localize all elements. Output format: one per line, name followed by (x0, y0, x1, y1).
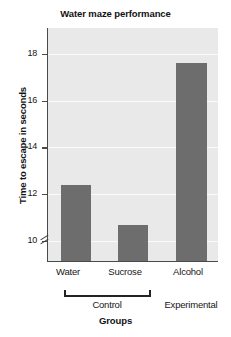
y-tick-12 (42, 194, 48, 195)
bracket-bar (64, 295, 151, 297)
y-tick-label-16: 16 (0, 95, 37, 105)
plot-area (48, 28, 218, 262)
y-tick-label-14: 14 (0, 141, 37, 151)
y-tick-16 (42, 101, 48, 102)
y-tick-label-12: 12 (0, 188, 37, 198)
x-category-label-water: Water (40, 266, 96, 277)
control-group-bracket (64, 290, 151, 297)
y-axis-line (47, 28, 48, 262)
group-label-control: Control (62, 299, 152, 310)
x-category-label-alcohol: Alcohol (158, 266, 218, 277)
chart-title: Water maze performance (0, 8, 231, 19)
y-tick-label-10: 10 (0, 235, 37, 245)
axis-break-icon (40, 235, 50, 244)
bar-alcohol (176, 63, 207, 262)
x-axis-title: Groups (0, 315, 231, 326)
x-category-label-sucrose: Sucrose (92, 266, 158, 277)
bar-water (61, 185, 91, 262)
y-tick-14 (42, 147, 48, 148)
y-tick-18 (42, 54, 48, 55)
gridline-18 (48, 54, 218, 55)
bar-sucrose (118, 225, 148, 262)
group-label-experimental: Experimental (151, 299, 231, 310)
y-tick-label-18: 18 (0, 48, 37, 58)
x-axis-line (47, 261, 218, 262)
